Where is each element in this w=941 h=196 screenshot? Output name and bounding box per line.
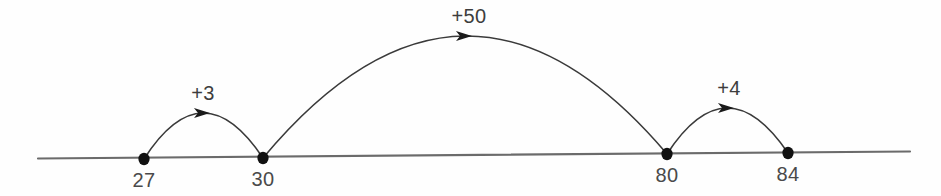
tick-label: 80 [655,164,678,186]
jump-arrowheads-group [194,31,734,118]
jump-label: +3 [191,82,214,104]
tick-dot [782,147,793,159]
tick-label: 30 [251,168,274,190]
jump-arc [144,113,263,159]
jump-labels-group: +3+50+4 [191,5,740,104]
jump-label: +50 [452,5,487,27]
jump-arc [667,108,788,154]
jump-label: +4 [717,77,740,99]
tick-dot [257,152,268,164]
tick-labels-group: 27308084 [132,163,799,191]
tick-label: 84 [776,163,799,185]
tick-label: 27 [132,169,155,191]
jump-arc [263,36,667,158]
tick-dot [138,153,149,165]
tick-dot [661,148,672,160]
number-line-axis [38,152,910,159]
number-line-canvas: 27308084 +3+50+4 [0,0,941,196]
jump-arcs-group [144,36,788,159]
number-line-diagram: 27308084 +3+50+4 [0,0,941,196]
